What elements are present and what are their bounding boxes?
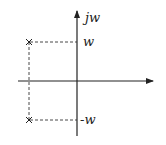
s-plane-diagram: jw w -w xyxy=(0,0,166,145)
imaginary-axis-label: jw xyxy=(82,10,100,25)
upper-tick-label: w xyxy=(83,34,94,49)
lower-tick-label: -w xyxy=(80,112,96,127)
